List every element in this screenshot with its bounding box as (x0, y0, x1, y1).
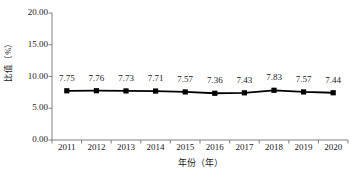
data-point-marker (183, 89, 188, 94)
data-point-marker (271, 88, 276, 93)
series-line (67, 90, 333, 93)
data-point-marker (301, 89, 306, 94)
data-point-marker (153, 88, 158, 93)
data-point-marker (242, 90, 247, 95)
x-axis-tick-label: 2020 (313, 143, 353, 152)
data-point-marker (331, 90, 336, 95)
axis-lines (52, 13, 348, 140)
data-point-marker (94, 88, 99, 93)
data-point-marker (64, 88, 69, 93)
line-chart: 比值（%） 0.005.0010.0015.0020.00 7.757.767.… (0, 0, 355, 179)
data-point-marker (123, 88, 128, 93)
x-axis-tick-labels: 2011201220132014201520162017201820192020 (52, 143, 348, 159)
x-axis-title: 年份（年） (52, 159, 348, 168)
data-point-marker (212, 91, 217, 96)
y-axis-ticks (49, 13, 53, 140)
